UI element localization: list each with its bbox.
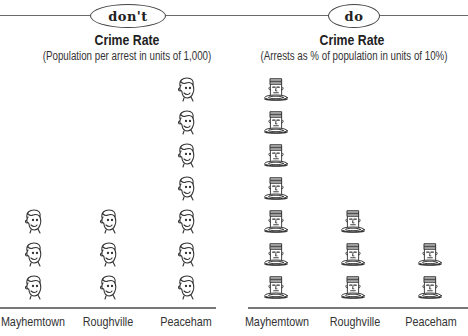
prisoner-icon [261, 140, 291, 170]
do-badge-label: do [345, 9, 364, 24]
dont-category-roughville: Roughville [72, 314, 144, 329]
prisoner-icon [261, 173, 291, 203]
prisoner-icon [415, 272, 445, 302]
header-rule-left [0, 15, 90, 16]
do-badge: do [328, 4, 380, 28]
face-icon [93, 272, 123, 302]
face-icon [93, 239, 123, 269]
face-icon [18, 206, 48, 236]
prisoner-icon [261, 272, 291, 302]
do-x-axis [248, 307, 468, 309]
do-category-roughville: Roughville [319, 314, 391, 329]
do-chart-subtitle: (Arrests as % of population in units of … [237, 49, 468, 63]
face-icon [171, 107, 201, 137]
dont-category-mayhemtown: Mayhemtown [0, 314, 69, 329]
dont-badge: don't [90, 4, 166, 28]
face-icon [93, 206, 123, 236]
prisoner-icon [261, 206, 291, 236]
face-icon [18, 239, 48, 269]
dont-badge-label: don't [108, 9, 148, 24]
face-icon [171, 74, 201, 104]
prisoner-icon [338, 272, 368, 302]
prisoner-icon [261, 74, 291, 104]
do-category-peaceham: Peaceham [395, 314, 467, 329]
prisoner-icon [338, 239, 368, 269]
prisoner-icon [261, 107, 291, 137]
prisoner-icon [261, 239, 291, 269]
face-icon [171, 239, 201, 269]
do-chart-title: Crime Rate [270, 31, 434, 48]
face-icon [171, 173, 201, 203]
prisoner-icon [415, 239, 445, 269]
header-rule-middle [165, 15, 328, 16]
face-icon [18, 272, 48, 302]
face-icon [171, 206, 201, 236]
dont-chart-subtitle: (Population per arrest in units of 1,000… [16, 49, 238, 63]
dont-category-peaceham: Peaceham [150, 314, 222, 329]
dont-x-axis [0, 307, 216, 309]
face-icon [171, 140, 201, 170]
do-category-mayhemtown: Mayhemtown [241, 314, 313, 329]
face-icon [171, 272, 201, 302]
prisoner-icon [338, 206, 368, 236]
header-rule-right [378, 15, 468, 16]
dont-chart-title: Crime Rate [45, 31, 209, 48]
